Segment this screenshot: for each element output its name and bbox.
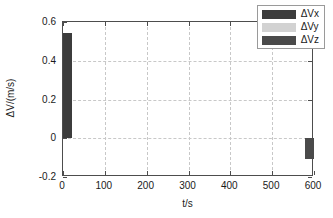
bar-dvx xyxy=(63,33,72,139)
y-axis-tick-label: 0.6 xyxy=(22,16,56,27)
y-axis-tick xyxy=(63,138,67,139)
legend-item: ΔVz xyxy=(262,35,319,45)
x-axis-tick xyxy=(272,171,273,175)
bar-dvz xyxy=(305,138,314,158)
gridline-vertical xyxy=(147,22,148,175)
x-axis-label: t/s xyxy=(62,198,313,209)
legend-swatch-icon xyxy=(262,23,296,32)
x-axis-tick xyxy=(189,22,190,26)
gridline-vertical xyxy=(105,22,106,175)
x-axis-tick xyxy=(147,171,148,175)
y-axis-tick xyxy=(308,61,312,62)
legend-swatch-icon xyxy=(262,10,296,19)
x-axis-tick xyxy=(314,171,315,175)
legend-item: ΔVx xyxy=(262,9,319,19)
x-axis-tick xyxy=(105,22,106,26)
y-axis-tick xyxy=(308,177,312,178)
x-axis-tick xyxy=(189,171,190,175)
x-axis-tick-label: 100 xyxy=(95,180,112,191)
x-axis-tick-label: 0 xyxy=(59,180,65,191)
legend-label: ΔVx xyxy=(301,9,319,19)
gridline-horizontal xyxy=(63,100,312,101)
x-axis-tick-label: 500 xyxy=(263,180,280,191)
x-axis-tick xyxy=(147,22,148,26)
y-axis-tick xyxy=(63,22,67,23)
y-axis-tick-label: 0 xyxy=(22,132,56,143)
y-axis-label: ΔV/(m/s) xyxy=(5,79,16,118)
gridline-horizontal xyxy=(63,61,312,62)
gridline-vertical xyxy=(230,22,231,175)
legend-label: ΔVz xyxy=(301,35,319,45)
legend-swatch-icon xyxy=(262,36,296,45)
legend-item: ΔVy xyxy=(262,22,319,32)
legend-label: ΔVy xyxy=(301,22,319,32)
y-axis-tick-label: -0.2 xyxy=(22,171,56,182)
y-axis-tick-label: 0.2 xyxy=(22,93,56,104)
x-axis-tick-label: 300 xyxy=(179,180,196,191)
y-axis-tick xyxy=(63,177,67,178)
y-axis-tick-label: 0.4 xyxy=(22,54,56,65)
x-axis-tick-label: 200 xyxy=(137,180,154,191)
chart-legend: ΔVxΔVyΔVz xyxy=(257,5,325,49)
gridline-vertical xyxy=(189,22,190,175)
y-axis-tick xyxy=(308,100,312,101)
gridline-horizontal xyxy=(63,138,312,139)
x-axis-tick xyxy=(230,171,231,175)
x-axis-tick xyxy=(230,22,231,26)
chart-figure: t/s ΔV/(m/s) ΔVxΔVyΔVz 01002003004005006… xyxy=(0,0,333,218)
x-axis-tick xyxy=(105,171,106,175)
x-axis-tick-label: 600 xyxy=(305,180,322,191)
x-axis-tick-label: 400 xyxy=(221,180,238,191)
x-axis-tick xyxy=(63,171,64,175)
